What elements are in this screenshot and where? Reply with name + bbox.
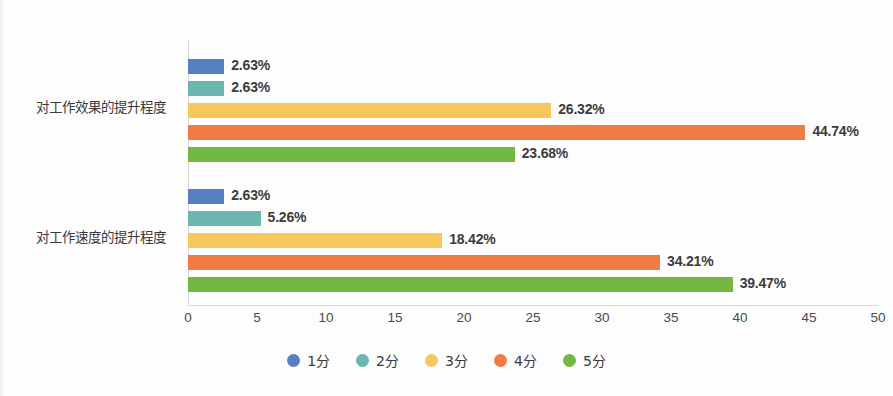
category-label-1: 对工作速度的提升程度	[0, 226, 166, 246]
x-axis-tick-label: 5	[253, 310, 261, 325]
legend-item-2分[interactable]: 2分	[356, 350, 399, 370]
category-label-0: 对工作效果的提升程度	[0, 96, 166, 116]
bar-row: 23.68%	[188, 146, 878, 164]
legend-swatch-icon	[425, 354, 438, 367]
legend-swatch-icon	[563, 354, 576, 367]
bar-value-s1-c0: 2.63%	[231, 79, 270, 95]
x-axis-tick-label: 20	[456, 310, 471, 325]
bar-s3-c0	[188, 125, 805, 140]
x-axis-tick-label: 0	[184, 310, 192, 325]
x-axis-tick-label: 15	[387, 310, 402, 325]
bar-row: 2.63%	[188, 80, 878, 98]
bar-s1-c1	[188, 211, 261, 226]
x-axis-tick-label: 10	[318, 310, 333, 325]
bar-row: 2.63%	[188, 58, 878, 76]
plot-area: 对工作效果的提升程度 2.63% 2.63% 26.32% 44.74% 23.…	[188, 40, 878, 305]
bar-s2-c0	[188, 103, 551, 118]
bar-value-s0-c0: 2.63%	[231, 57, 270, 73]
bar-s1-c0	[188, 81, 224, 96]
bar-row: 34.21%	[188, 254, 878, 272]
bar-s3-c1	[188, 255, 660, 270]
bar-s4-c0	[188, 147, 515, 162]
x-axis-tick-label: 40	[732, 310, 747, 325]
bar-row: 5.26%	[188, 210, 878, 228]
bar-row: 2.63%	[188, 188, 878, 206]
legend-swatch-icon	[494, 354, 507, 367]
legend-label: 4分	[514, 350, 537, 370]
bar-value-s3-c1: 34.21%	[667, 253, 713, 269]
bar-value-s2-c1: 18.42%	[449, 231, 495, 247]
legend-label: 1分	[307, 350, 330, 370]
category-group: 对工作速度的提升程度 2.63% 5.26% 18.42% 34.21% 39.…	[188, 188, 878, 298]
bar-row: 26.32%	[188, 102, 878, 120]
x-axis-tick-label: 30	[594, 310, 609, 325]
x-axis-tick-label: 25	[525, 310, 540, 325]
legend-swatch-icon	[287, 354, 300, 367]
bar-value-s4-c1: 39.47%	[740, 275, 786, 291]
bar-value-s4-c0: 23.68%	[522, 145, 568, 161]
x-axis-tick-label: 35	[663, 310, 678, 325]
x-axis-tick-label: 45	[801, 310, 816, 325]
legend-label: 5分	[583, 350, 606, 370]
legend-item-3分[interactable]: 3分	[425, 350, 468, 370]
bar-chart: 对工作效果的提升程度 2.63% 2.63% 26.32% 44.74% 23.…	[0, 0, 893, 396]
bar-s2-c1	[188, 233, 442, 248]
x-axis-line	[188, 305, 878, 306]
bar-row: 18.42%	[188, 232, 878, 250]
category-group: 对工作效果的提升程度 2.63% 2.63% 26.32% 44.74% 23.…	[188, 58, 878, 168]
bar-value-s0-c1: 2.63%	[231, 187, 270, 203]
scan-edge	[0, 0, 3, 396]
bar-s0-c0	[188, 59, 224, 74]
chart-legend: 1分2分3分4分5分	[0, 350, 893, 370]
legend-item-1分[interactable]: 1分	[287, 350, 330, 370]
legend-label: 2分	[376, 350, 399, 370]
legend-item-5分[interactable]: 5分	[563, 350, 606, 370]
bar-value-s1-c1: 5.26%	[268, 209, 307, 225]
legend-swatch-icon	[356, 354, 369, 367]
bar-value-s3-c0: 44.74%	[812, 123, 858, 139]
bar-row: 44.74%	[188, 124, 878, 142]
bar-s0-c1	[188, 189, 224, 204]
bar-s4-c1	[188, 277, 733, 292]
bar-row: 39.47%	[188, 276, 878, 294]
bar-value-s2-c0: 26.32%	[558, 101, 604, 117]
legend-label: 3分	[445, 350, 468, 370]
x-axis-ticks: 05101520253035404550	[188, 310, 878, 332]
legend-item-4分[interactable]: 4分	[494, 350, 537, 370]
x-axis-tick-label: 50	[870, 310, 885, 325]
